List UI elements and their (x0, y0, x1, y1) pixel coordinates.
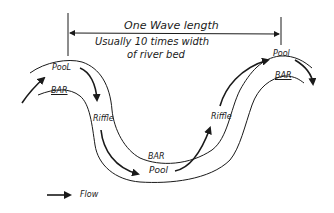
river-channel (30, 56, 312, 183)
wavelength-subtitle-line1: Usually 10 times width (95, 37, 209, 47)
label-bar-right: BAR (275, 72, 292, 80)
flow-arrow-pool-to-riffle-right (175, 128, 210, 171)
outer-bank-line (38, 76, 304, 182)
label-riffle-right: Riffle (211, 113, 232, 121)
inner-bank-line (30, 56, 312, 163)
flow-arrows (22, 60, 313, 174)
label-pool-left: PooL (52, 64, 71, 72)
label-pool-right: Pool (273, 50, 290, 58)
flow-arrow-entry (22, 78, 44, 103)
label-pool-bottom: Pool (149, 166, 168, 175)
legend-flow-label: Flow (80, 191, 98, 199)
wavelength-subtitle-line2: of river bed (127, 50, 185, 60)
label-bar-left: BAR (51, 87, 68, 95)
wavelength-arrow (70, 33, 279, 34)
flow-arrow-exit (295, 60, 313, 84)
meander-diagram: One Wave length Usually 10 times width o… (0, 0, 334, 213)
flow-arrow-pool-to-riffle (80, 68, 97, 100)
label-riffle-left: Riffle (93, 115, 114, 123)
wavelength-title: One Wave length (124, 20, 219, 31)
label-bar-bottom: BAR (148, 153, 165, 161)
